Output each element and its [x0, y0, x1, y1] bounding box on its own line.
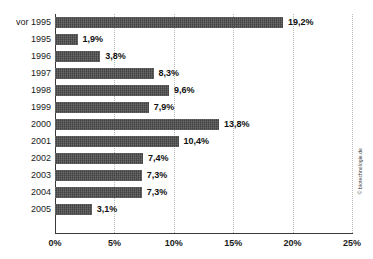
bar-value-label: 7,4%: [148, 152, 169, 164]
bar-value-label: 7,3%: [147, 169, 168, 181]
bar-row: 19,2%: [55, 14, 352, 31]
category-label: vor 1995: [1, 14, 51, 31]
category-label: 1996: [1, 48, 51, 65]
bar-value-label: 19,2%: [288, 16, 314, 28]
category-label: 1998: [1, 82, 51, 99]
x-tick-label: 15%: [224, 238, 242, 248]
bar-chart: vor 199519951996199719981999200020012002…: [0, 0, 373, 259]
bar: [55, 85, 169, 96]
bar: [55, 136, 179, 147]
category-label: 2005: [1, 201, 51, 218]
bar-row: 7,3%: [55, 167, 352, 184]
bar-row: 13,8%: [55, 116, 352, 133]
bar-value-label: 9,6%: [174, 84, 195, 96]
bar: [55, 170, 142, 181]
bar-row: 7,9%: [55, 99, 352, 116]
bar-value-label: 8,3%: [159, 67, 180, 79]
x-axis-baseline: [55, 233, 353, 234]
plot-area: 19,2%1,9%3,8%8,3%9,6%7,9%13,8%10,4%7,4%7…: [55, 14, 352, 233]
bar: [55, 119, 219, 130]
bar-value-label: 13,8%: [224, 118, 250, 130]
bar-row: 9,6%: [55, 82, 352, 99]
category-label: 1997: [1, 65, 51, 82]
bar-value-label: 10,4%: [184, 135, 210, 147]
bar: [55, 17, 283, 28]
x-tick-label: 10%: [165, 238, 183, 248]
bar-value-label: 7,3%: [147, 186, 168, 198]
bar-value-label: 3,8%: [105, 50, 126, 62]
category-label: 2003: [1, 167, 51, 184]
x-tick-label: 0%: [48, 238, 61, 248]
bar: [55, 102, 149, 113]
category-label: 2004: [1, 184, 51, 201]
x-tick-label: 25%: [343, 238, 361, 248]
bar-value-label: 1,9%: [83, 33, 104, 45]
bar-row: 3,8%: [55, 48, 352, 65]
category-label: 2002: [1, 150, 51, 167]
bar: [55, 187, 142, 198]
category-label: 1995: [1, 31, 51, 48]
category-label: 1999: [1, 99, 51, 116]
bar: [55, 51, 100, 62]
bar-value-label: 7,9%: [154, 101, 175, 113]
bar-row: 8,3%: [55, 65, 352, 82]
category-label: 2001: [1, 133, 51, 150]
bar: [55, 204, 92, 215]
category-label: 2000: [1, 116, 51, 133]
category-axis: vor 199519951996199719981999200020012002…: [0, 14, 51, 233]
credit-watermark: © biotechnologie.de: [357, 148, 363, 194]
bar-value-label: 3,1%: [97, 203, 118, 215]
gridline-25%: [352, 14, 353, 233]
bar-row: 7,3%: [55, 184, 352, 201]
bar-row: 3,1%: [55, 201, 352, 218]
bar: [55, 34, 78, 45]
bar-row: 1,9%: [55, 31, 352, 48]
bar-row: 10,4%: [55, 133, 352, 150]
x-tick-label: 5%: [108, 238, 121, 248]
bar: [55, 68, 154, 79]
x-tick-label: 20%: [284, 238, 302, 248]
bar: [55, 153, 143, 164]
bar-row: 7,4%: [55, 150, 352, 167]
